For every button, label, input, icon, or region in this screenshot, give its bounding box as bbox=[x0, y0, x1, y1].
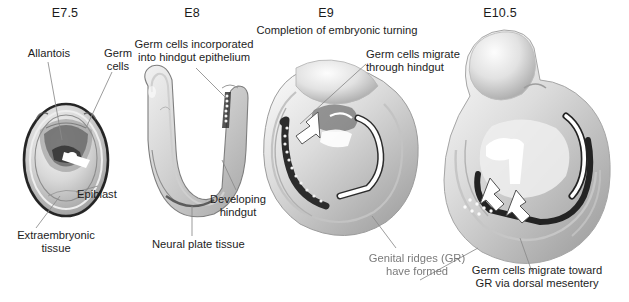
figure-canvas: E7.5 E8 E9 E10.5 Allantois Germ cells Ep… bbox=[0, 0, 629, 302]
annotation-germ-cells-incorporated: Germ cells incorporated into hindgut epi… bbox=[130, 38, 258, 64]
embryo-e7-5 bbox=[24, 62, 112, 228]
embryo-illustration bbox=[0, 0, 629, 302]
annotation-allantois: Allantois bbox=[11, 47, 87, 60]
annotation-epiblast: Epiblast bbox=[77, 188, 147, 201]
stage-label-e10-5: E10.5 bbox=[470, 6, 530, 20]
annotation-germ-cells-migrate-hindgut: Germ cells migrate through hindgut bbox=[366, 48, 476, 74]
annotation-germ-cells-migrate-gr: Germ cells migrate toward GR via dorsal … bbox=[448, 264, 626, 290]
embryo-e9 bbox=[264, 60, 419, 248]
annotation-developing-hindgut: Developing hindgut bbox=[200, 193, 276, 219]
annotation-embryonic-turning: Completion of embryonic turning bbox=[246, 24, 428, 37]
stage-label-e7-5: E7.5 bbox=[35, 6, 95, 20]
annotation-neural-plate-tissue: Neural plate tissue bbox=[152, 238, 268, 251]
annotation-extraembryonic-tissue: Extraembryonic tissue bbox=[2, 229, 110, 255]
stage-label-e9: E9 bbox=[304, 6, 348, 20]
stage-label-e8: E8 bbox=[167, 6, 217, 20]
